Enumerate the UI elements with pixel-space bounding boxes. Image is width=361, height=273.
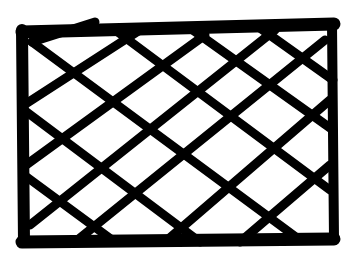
crosshatch-rectangle-drawing	[0, 0, 361, 273]
border-top	[22, 24, 334, 32]
hatch-line	[24, 110, 200, 242]
hatch-line	[260, 28, 333, 80]
border-right	[332, 24, 334, 239]
hatch-line	[24, 175, 115, 242]
hatch-lines	[24, 22, 333, 242]
border-left	[22, 30, 24, 242]
border-bottom	[22, 239, 334, 242]
